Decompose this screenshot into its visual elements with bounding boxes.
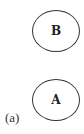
panel-label: (a) <box>5 111 19 124</box>
node-b-label: B <box>51 25 61 37</box>
node-a-label: A <box>51 94 60 106</box>
node-b-circle: B <box>32 10 80 52</box>
node-a-circle: A <box>32 79 80 121</box>
